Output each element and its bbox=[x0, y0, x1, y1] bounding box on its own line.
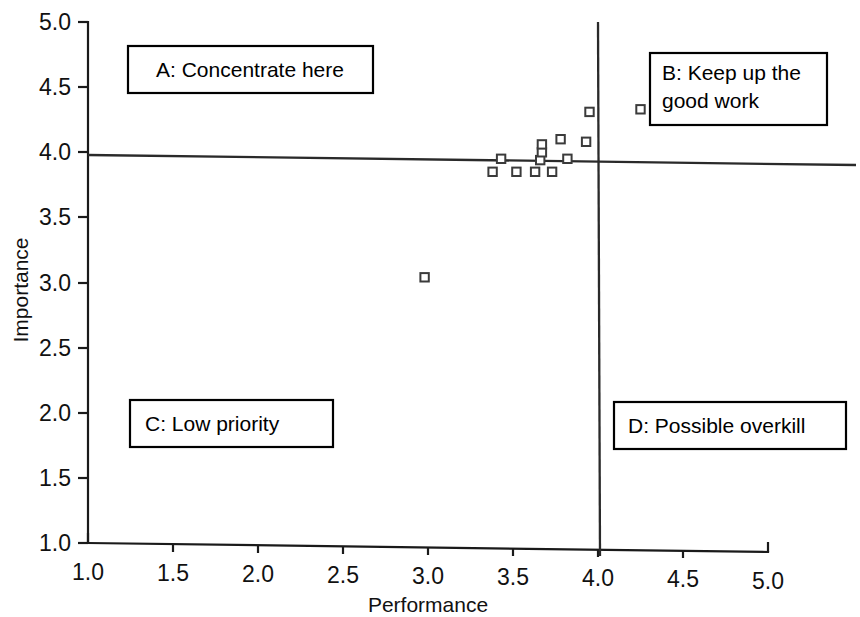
x-tick-label-2.0: 2.0 bbox=[242, 561, 274, 587]
y-tick-label-1.5: 1.5 bbox=[39, 465, 71, 491]
data-point[interactable] bbox=[488, 168, 496, 176]
y-tick-label-2.0: 2.0 bbox=[39, 400, 71, 426]
y-axis-title: Importance bbox=[9, 237, 32, 342]
data-point[interactable] bbox=[585, 108, 593, 116]
y-tick-label-3.5: 3.5 bbox=[39, 204, 71, 230]
data-point[interactable] bbox=[512, 168, 520, 176]
data-point[interactable] bbox=[538, 140, 546, 148]
y-tick-label-5.0: 5.0 bbox=[39, 9, 71, 35]
quadrant-a-text: A: Concentrate here bbox=[156, 58, 344, 81]
chart-page: 5.0 4.5 4.0 3.5 3.0 2.5 2.0 1.5 1.0 Impo… bbox=[0, 0, 860, 617]
data-point[interactable] bbox=[420, 273, 428, 281]
x-tick-label-3.5: 3.5 bbox=[497, 564, 529, 590]
vertical-mean-divider-line bbox=[598, 22, 600, 556]
y-tick-label-4.0: 4.0 bbox=[39, 139, 71, 165]
quadrant-b-text-line2: good work bbox=[662, 89, 759, 112]
x-tick-label-3.0: 3.0 bbox=[412, 563, 444, 589]
x-tick-label-1.5: 1.5 bbox=[157, 560, 189, 586]
quadrant-b-text-line1: B: Keep up the bbox=[662, 61, 801, 84]
y-tick-label-1.0: 1.0 bbox=[39, 530, 71, 556]
horizontal-mean-divider-line bbox=[88, 155, 856, 165]
x-axis-title: Performance bbox=[368, 593, 488, 616]
data-point[interactable] bbox=[531, 168, 539, 176]
x-tick-label-1.0: 1.0 bbox=[72, 559, 104, 585]
y-tick-label-3.0: 3.0 bbox=[39, 270, 71, 296]
quadrant-label-b[interactable]: B: Keep up the good work bbox=[650, 53, 827, 125]
x-tick-label-2.5: 2.5 bbox=[327, 562, 359, 588]
data-point[interactable] bbox=[497, 155, 505, 163]
y-tick-label-2.5: 2.5 bbox=[39, 335, 71, 361]
x-tick-label-5.0: 5.0 bbox=[752, 568, 784, 594]
quadrant-label-a[interactable]: A: Concentrate here bbox=[128, 46, 373, 93]
scatter-point-group bbox=[420, 105, 644, 281]
data-point[interactable] bbox=[563, 155, 571, 163]
quadrant-d-text: D: Possible overkill bbox=[628, 414, 805, 437]
data-point[interactable] bbox=[548, 168, 556, 176]
data-point[interactable] bbox=[636, 105, 644, 113]
quadrant-c-text: C: Low priority bbox=[145, 412, 280, 435]
data-point[interactable] bbox=[582, 138, 590, 146]
quadrant-label-d[interactable]: D: Possible overkill bbox=[614, 402, 846, 449]
data-point[interactable] bbox=[556, 135, 564, 143]
importance-performance-scatter-chart: 5.0 4.5 4.0 3.5 3.0 2.5 2.0 1.5 1.0 Impo… bbox=[0, 0, 860, 617]
x-tick-label-4.0: 4.0 bbox=[582, 565, 614, 591]
quadrant-label-c[interactable]: C: Low priority bbox=[130, 400, 333, 447]
x-tick-label-4.5: 4.5 bbox=[667, 566, 699, 592]
y-tick-label-4.5: 4.5 bbox=[39, 74, 71, 100]
